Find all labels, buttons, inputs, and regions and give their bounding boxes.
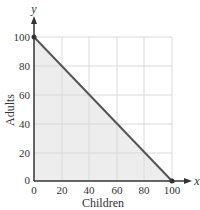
svg-text:60: 60 bbox=[19, 89, 31, 101]
y-axis-label: Adults bbox=[3, 94, 17, 126]
svg-text:60: 60 bbox=[112, 184, 124, 196]
point-x-intercept bbox=[170, 179, 175, 184]
svg-text:0: 0 bbox=[25, 174, 31, 186]
x-axis-label: Children bbox=[82, 196, 124, 210]
x-axis-arrow-icon bbox=[184, 178, 192, 184]
svg-text:100: 100 bbox=[14, 31, 31, 43]
x-axis-symbol: x bbox=[193, 174, 200, 188]
svg-text:80: 80 bbox=[139, 184, 151, 196]
x-tick-labels: 0 20 40 60 80 100 bbox=[31, 184, 181, 196]
svg-text:100: 100 bbox=[164, 184, 181, 196]
svg-text:20: 20 bbox=[19, 147, 31, 159]
svg-text:80: 80 bbox=[19, 60, 31, 72]
y-axis-arrow-icon bbox=[31, 16, 37, 24]
chart: y x 100 80 60 40 20 0 0 20 40 60 80 100 … bbox=[0, 0, 200, 210]
svg-text:0: 0 bbox=[31, 184, 37, 196]
point-y-intercept bbox=[32, 35, 37, 40]
svg-text:40: 40 bbox=[84, 184, 96, 196]
y-axis-symbol: y bbox=[30, 2, 37, 16]
svg-text:20: 20 bbox=[57, 184, 69, 196]
svg-text:40: 40 bbox=[19, 118, 31, 130]
